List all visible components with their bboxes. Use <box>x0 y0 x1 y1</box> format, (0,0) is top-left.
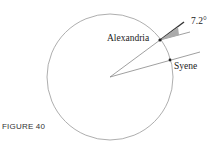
angle-wedge <box>160 27 179 40</box>
alexandria-label: Alexandria <box>107 33 149 43</box>
radius-alexandria <box>110 40 160 77</box>
syene-label: Syene <box>174 61 197 71</box>
syene-point <box>169 59 172 62</box>
alexandria-point <box>158 38 161 41</box>
ray-extension <box>160 22 184 40</box>
angle-label: 7.2° <box>191 16 207 26</box>
figure-caption: FIGURE 40 <box>2 122 45 131</box>
